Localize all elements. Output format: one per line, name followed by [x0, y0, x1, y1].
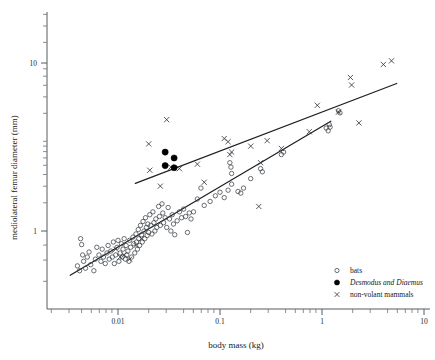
- data-point-nonvolant: [227, 152, 232, 157]
- legend-label-bats: bats: [350, 266, 362, 275]
- data-point-nonvolant: [147, 168, 152, 173]
- data-point-bat: [100, 247, 104, 251]
- data-point-bat: [117, 259, 121, 263]
- data-point-bat: [171, 222, 175, 226]
- legend: bats Desmodus and Diaemus non-volant mam…: [334, 266, 423, 299]
- data-point-bat: [95, 245, 99, 249]
- data-point-bat: [151, 210, 155, 214]
- data-point-nonvolant: [158, 184, 163, 189]
- y-tick-label-1: 1: [33, 227, 37, 236]
- x-axis-ticks: [118, 309, 424, 315]
- data-point-nonvolant: [225, 139, 230, 144]
- data-point-nonvolant: [265, 138, 270, 143]
- data-point-bat: [164, 225, 168, 229]
- data-point-bat: [183, 214, 187, 218]
- data-point-nonvolant: [356, 120, 361, 125]
- data-point-nonvolant: [164, 117, 169, 122]
- y-axis-minor-ticks: [43, 14, 47, 281]
- series-desmodus-points: [162, 149, 177, 171]
- scatter-plot-svg: 10 1 mediolateral femur diameter (mm): [0, 0, 435, 360]
- data-point-nonvolant: [349, 82, 354, 87]
- data-point-bat: [189, 217, 193, 221]
- data-point-bat: [75, 264, 79, 268]
- data-point-bat: [213, 194, 217, 198]
- data-point-bat: [166, 205, 170, 209]
- data-point-bat: [187, 211, 191, 215]
- data-point-bat: [92, 269, 96, 273]
- data-point-bat: [134, 232, 138, 236]
- data-point-bat: [226, 188, 230, 192]
- data-point-nonvolant: [229, 149, 234, 154]
- data-point-bat: [124, 243, 128, 247]
- data-point-bat: [81, 259, 85, 263]
- x-tick-label-1: 1: [320, 317, 324, 326]
- data-point-nonvolant: [348, 75, 353, 80]
- data-point-bat: [161, 211, 165, 215]
- data-point-desmodus: [171, 155, 177, 161]
- data-point-bat: [138, 223, 142, 227]
- y-axis-title: mediolateral femur diameter (mm): [9, 115, 19, 240]
- data-point-bat: [175, 219, 179, 223]
- x-axis-minor-ticks: [51, 309, 418, 313]
- data-point-nonvolant: [389, 58, 394, 63]
- data-point-nonvolant: [315, 103, 320, 108]
- data-point-bat: [122, 236, 126, 240]
- data-point-desmodus: [162, 149, 168, 155]
- data-point-bat: [128, 245, 132, 249]
- data-point-bat: [160, 202, 164, 206]
- legend-label-nonvolant: non-volant mammals: [350, 290, 414, 299]
- legend-marker-open-circle: [335, 268, 339, 272]
- data-point-bat: [107, 257, 111, 261]
- data-point-bat: [169, 229, 173, 233]
- data-point-nonvolant: [195, 162, 200, 167]
- data-point-bat: [111, 240, 115, 244]
- data-point-bat: [136, 227, 140, 231]
- x-axis-title: body mass (kg): [208, 340, 264, 350]
- data-point-bat: [87, 250, 91, 254]
- legend-marker-cross: [335, 292, 340, 297]
- legend-marker-filled-circle: [334, 280, 339, 285]
- data-point-bat: [173, 233, 177, 237]
- data-point-desmodus: [171, 165, 177, 171]
- data-point-bat: [199, 186, 203, 190]
- data-point-bat: [241, 186, 245, 190]
- data-point-bat: [116, 238, 120, 242]
- data-point-desmodus: [162, 163, 168, 169]
- data-point-bat: [191, 210, 195, 214]
- data-point-bat: [229, 182, 233, 186]
- data-point-bat: [85, 255, 89, 259]
- data-point-bat: [249, 176, 253, 180]
- data-point-bat: [229, 165, 233, 169]
- x-tick-label-01: 0.1: [215, 317, 225, 326]
- legend-label-desmodus: Desmodus and Diaemus: [349, 278, 423, 287]
- y-axis-ticks: [41, 63, 47, 231]
- data-point-nonvolant: [248, 144, 253, 149]
- data-point-bat: [103, 261, 107, 265]
- data-point-bat: [161, 221, 165, 225]
- data-point-bat: [185, 230, 189, 234]
- x-tick-label-10: 10: [420, 317, 428, 326]
- data-point-bat: [97, 253, 101, 257]
- data-point-bat: [143, 216, 147, 220]
- data-point-bat: [222, 195, 226, 199]
- data-point-bat: [112, 261, 116, 265]
- data-point-nonvolant: [381, 62, 386, 67]
- data-point-nonvolant: [256, 204, 261, 209]
- x-tick-label-001: 0.01: [111, 317, 124, 326]
- data-point-bat: [106, 243, 110, 247]
- data-point-nonvolant: [258, 160, 263, 165]
- data-point-nonvolant: [146, 141, 151, 146]
- data-point-bat: [78, 236, 82, 240]
- data-point-bat: [80, 253, 84, 257]
- data-point-bat: [208, 199, 212, 203]
- data-point-bat: [202, 203, 206, 207]
- data-point-nonvolant: [222, 136, 227, 141]
- series-nonvolant-points: [113, 58, 394, 261]
- data-point-bat: [229, 171, 233, 175]
- data-point-bat: [167, 217, 171, 221]
- data-point-bat: [157, 214, 161, 218]
- data-point-bat: [228, 161, 232, 165]
- data-point-nonvolant: [202, 180, 207, 185]
- data-point-bat: [114, 253, 118, 257]
- data-point-bat: [99, 259, 103, 263]
